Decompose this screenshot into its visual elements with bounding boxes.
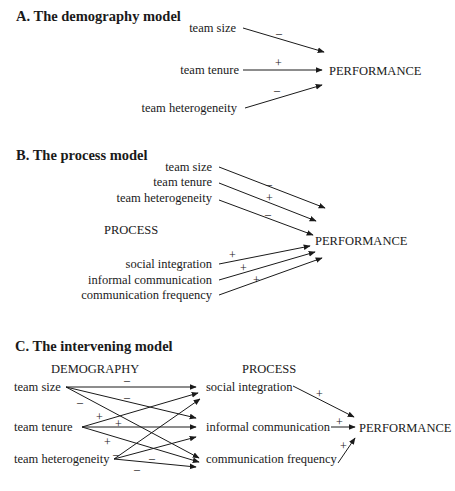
b-sign-informal: + — [240, 262, 247, 274]
b-sign-tenure: + — [266, 192, 273, 204]
c-sign-heterogeneity-informal: – — [149, 452, 155, 464]
c-sign-tenure-frequency: + — [104, 436, 111, 448]
c-sign-frequency-performance: + — [340, 440, 347, 452]
c-sign-informal-performance: + — [336, 416, 343, 428]
a-sign-tenure: + — [275, 57, 282, 69]
c-process-social-integration: social integration — [206, 380, 292, 394]
b-input-social-integration: social integration — [126, 257, 212, 271]
a-sign-size: – — [276, 27, 282, 39]
c-sign-social-performance: + — [316, 388, 323, 400]
c-sign-heterogeneity-frequency: – — [134, 463, 140, 475]
c-sign-size-informal: – — [124, 391, 130, 403]
c-outcome-performance: PERFORMANCE — [359, 421, 451, 435]
c-demography-team-heterogeneity: team heterogeneity — [14, 452, 109, 466]
arrow-a-heterogeneity — [245, 85, 322, 108]
a-input-team-tenure: team tenure — [180, 63, 239, 77]
c-process-heading: PROCESS — [242, 362, 296, 376]
c-sign-size-social: – — [124, 374, 130, 386]
arrow-c-heterogeneity-social — [114, 399, 200, 459]
a-input-team-heterogeneity: team heterogeneity — [142, 101, 237, 115]
section-b-title: B. The process model — [16, 147, 148, 164]
c-sign-tenure-informal: + — [115, 418, 122, 430]
a-input-team-size: team size — [189, 21, 236, 35]
b-input-team-size: team size — [165, 160, 212, 174]
a-sign-heterogeneity: – — [274, 84, 280, 96]
arrow-c-heterogeneity-frequency — [114, 459, 196, 467]
arrow-b-frequency — [219, 258, 322, 295]
a-outcome-performance: PERFORMANCE — [329, 64, 421, 78]
b-sign-frequency: + — [253, 274, 260, 286]
c-sign-size-frequency: – — [77, 396, 83, 408]
b-input-communication-frequency: communication frequency — [81, 288, 212, 302]
section-a-title: A. The demography model — [16, 8, 181, 25]
arrow-c-social-performance — [293, 386, 354, 417]
b-input-team-tenure: team tenure — [153, 175, 212, 189]
b-process-heading: PROCESS — [104, 223, 158, 237]
b-sign-heterogeneity: – — [265, 208, 271, 220]
section-c-title: C. The intervening model — [15, 338, 173, 355]
c-sign-heterogeneity-social: – — [113, 448, 119, 460]
b-sign-social: + — [229, 249, 236, 261]
b-input-informal-communication: informal communication — [88, 273, 212, 287]
b-sign-size: – — [266, 178, 272, 190]
arrow-c-size-informal — [66, 387, 196, 418]
b-outcome-performance: PERFORMANCE — [315, 234, 407, 248]
arrow-a-size — [243, 28, 324, 52]
b-input-team-heterogeneity: team heterogeneity — [117, 191, 212, 205]
c-process-informal-communication: informal communication — [206, 420, 330, 434]
c-demography-team-size: team size — [14, 380, 61, 394]
c-sign-tenure-social: + — [96, 411, 103, 423]
c-demography-team-tenure: team tenure — [14, 420, 73, 434]
arrow-c-size-frequency — [66, 387, 199, 458]
c-process-communication-frequency: communication frequency — [206, 452, 337, 466]
